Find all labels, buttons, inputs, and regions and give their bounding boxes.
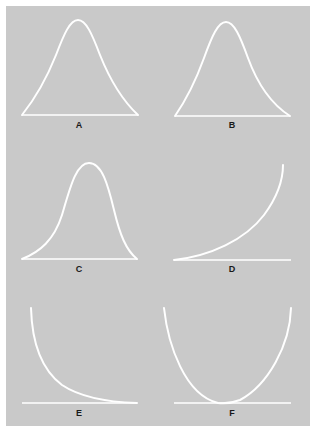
curve-f-u-shaped [164, 308, 291, 403]
label-a: A [76, 120, 83, 130]
curve-a-normal [22, 20, 138, 115]
panel-f: F [164, 308, 291, 418]
curve-d-j-shaped [174, 165, 283, 260]
distribution-shapes-figure: A B C D E F [0, 0, 314, 430]
label-c: C [76, 264, 83, 274]
panel-d: D [174, 165, 291, 274]
label-b: B [229, 120, 236, 130]
label-d: D [229, 264, 236, 274]
label-e: E [76, 408, 82, 418]
panel-e: E [22, 308, 137, 418]
curve-c-skewed [22, 163, 137, 259]
panel-b: B [175, 22, 290, 130]
panel-c: C [22, 163, 137, 274]
curve-b-normal [175, 22, 290, 116]
label-f: F [229, 408, 235, 418]
panel-a: A [22, 20, 138, 130]
curve-e-reverse-j [31, 308, 137, 403]
